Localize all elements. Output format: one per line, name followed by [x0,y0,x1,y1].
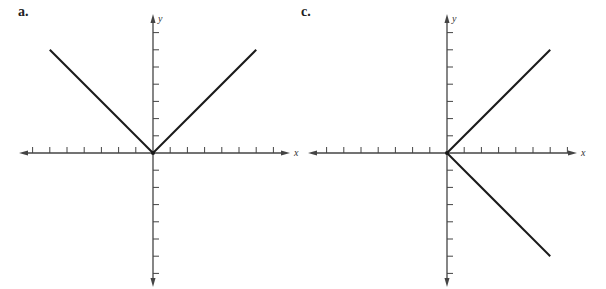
y-axis-label: y [157,13,163,24]
plot-line-right-branch [153,50,256,153]
graph-c: xy [294,0,606,289]
x-axis-label: x [580,147,586,158]
y-axis-up-arrow-icon [445,14,450,23]
plot-line-left-branch [50,50,153,153]
x-axis-left-arrow-icon [19,151,28,156]
y-axis-down-arrow-icon [151,278,156,287]
origin-point [151,151,155,155]
origin-point [445,151,449,155]
plot-line-upper-branch [447,50,550,153]
graph-a-panel: a. xy [0,0,303,289]
graph-a: xy [0,0,303,289]
y-axis-down-arrow-icon [445,278,450,287]
y-axis-label: y [451,13,457,24]
y-axis-up-arrow-icon [151,14,156,23]
plot-line-lower-branch [447,153,550,256]
x-axis-right-arrow-icon [281,151,290,156]
graph-c-panel: c. xy [294,0,597,289]
x-axis-left-arrow-icon [308,151,317,156]
x-axis-right-arrow-icon [568,151,577,156]
